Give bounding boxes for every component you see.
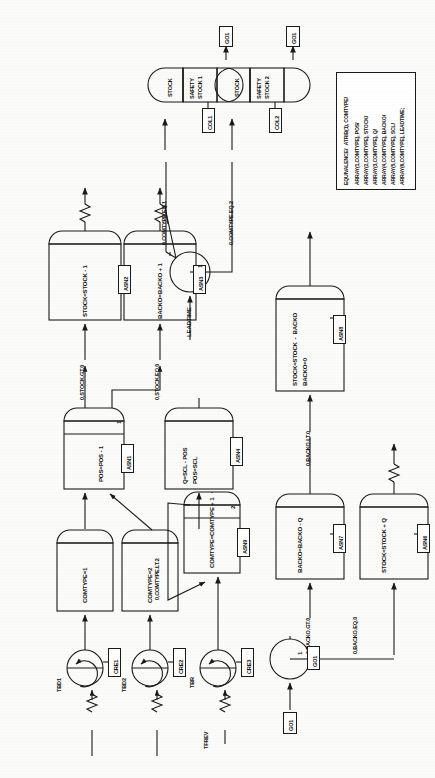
branch-condition-backo-lt-0: 0,BACKO.LT.0 <box>305 431 311 466</box>
tag-label-asn2: ASN2 <box>123 277 129 291</box>
terminate-label-go1-a: GO1 <box>224 33 230 44</box>
tag-label-asn6: ASN6 <box>422 536 428 550</box>
queue-label-stock-1: STOCK <box>167 79 173 97</box>
diagram-canvas: EQUIVALENCE/ ATRIB(1), COMTYPE/ ARRAY(1,… <box>0 0 435 778</box>
tag-label-asn4: ASN4 <box>235 449 241 463</box>
assign-label-comtype-1: COMTYPE=1 <box>82 568 89 603</box>
assign-label-asn4-line1: Q=SCL - POS <box>182 448 189 484</box>
assign-label-asn8-line1: STOCK=STOCK - BACKO <box>292 313 299 386</box>
offset-label-tfrev: TFREV <box>203 732 209 749</box>
entry-label-go1: GO1 <box>288 720 294 731</box>
tag-label-cre3: CRE3 <box>246 660 252 674</box>
goon-branch-count-a: 1 <box>197 265 204 268</box>
assign-label-asn3: BACKO=BACKO + 1 <box>157 263 164 319</box>
assign-label-asn4-line2: POS=SCL <box>192 457 199 484</box>
queue-label-stock-2: STOCK <box>234 79 240 97</box>
branch-condition-comtype-eq-2: 0,COMTYPE.EQ.2 <box>228 201 234 245</box>
tag-label-asn9: ASN9 <box>242 540 248 554</box>
activity-label-safety-stock-2-line2: STOCK 2 <box>264 76 270 99</box>
activity-label-safety-stock-1: SAFETY <box>189 78 195 99</box>
assign-label-asn2: STOCK=STOCK - 1 <box>82 265 89 317</box>
tag-label-asn1: ASN1 <box>126 456 132 470</box>
assign-label-asn6: STOCK=STOCK + Q <box>381 518 388 573</box>
equivalence-line-3: ARRAY(3,COMTYPE), Q/ <box>373 129 379 185</box>
equivalence-line-4: ARRAY(4,COMTYPE), BACKO/ <box>382 115 388 185</box>
tag-label-cre2: CRE2 <box>178 660 184 674</box>
assign-branch-count-asn1: 1 <box>116 421 123 424</box>
branch-condition-backo-eq-0: 0,BACKO.EQ.0 <box>352 617 358 654</box>
activity-label-safety-stock-2: SAFETY <box>256 78 262 99</box>
branch-condition-stock-eq-0: 0,STOCK.EQ.0 <box>154 364 160 400</box>
equivalence-line-6: ARRAY(6,COMTYPE), LEADTIME; <box>400 108 406 185</box>
interval-label-tbd1: TBD1 <box>56 678 62 692</box>
branch-condition-comtype-lt-2: 0,COMTYPE.LT.2 <box>154 558 160 600</box>
activity-duration-leadtime: LEADTIME <box>186 307 193 337</box>
equivalence-line-0: EQUIVALENCE/ ATRIB(1), COMTYPE/ <box>344 97 350 185</box>
branch-condition-comtype-eq-1: 0,COMTYPE.EQ.1 <box>161 201 167 245</box>
tag-label-cre1: CRE1 <box>113 660 119 674</box>
tag-label-col1: COL1 <box>207 116 213 130</box>
equivalence-line-2: ARRAY(2,COMTYPE), STOCK/ <box>364 116 370 185</box>
tag-label-asn3: ASN3 <box>198 277 204 291</box>
terminate-label-go1-b: GO1 <box>291 33 297 44</box>
interval-label-tbd2: TBD2 <box>121 678 127 692</box>
equivalence-line-1: ARRAY(1,COMTYPE), POS/ <box>355 123 361 185</box>
tag-label-asn8: ASN8 <box>338 327 344 341</box>
goon-branch-count-b: 1 <box>297 652 304 655</box>
activity-label-safety-stock-1-line2: STOCK 1 <box>197 76 203 99</box>
assign-label-asn9: COMTYPE=COMTYPE + 1 <box>209 498 216 568</box>
interval-label-tbr: TBR <box>189 677 195 688</box>
assign-label-comtype-2: COMTYPE=2 <box>147 568 154 603</box>
tag-label-go1-goon: GO1 <box>312 656 318 667</box>
assign-branch-count-asn9: 2 <box>230 506 237 509</box>
assign-label-asn7: BACKO=BACKO - Q <box>297 518 304 573</box>
assign-label-asn1: POS=POS - 1 <box>98 446 105 482</box>
equivalence-line-5: ARRAY(5,COMTYPE), SCL/ <box>391 123 397 185</box>
assign-label-asn8-line2: BACKO=0 <box>302 358 309 386</box>
branch-condition-stock-gt-0: 0,STOCK.GT.0 <box>79 365 85 400</box>
tag-label-col2: COL2 <box>274 116 280 130</box>
tag-label-asn7: ASN7 <box>338 536 344 550</box>
